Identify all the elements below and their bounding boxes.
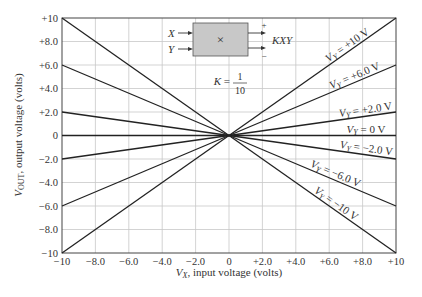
input-y-label: Y — [168, 43, 176, 55]
gain-denominator: 10 — [235, 85, 245, 96]
series-label: VY = +2.0 V — [338, 100, 393, 121]
y-tick-label: +6.0 — [39, 60, 58, 71]
arrowhead-icon — [261, 31, 266, 35]
series-label: VY = −10 V — [311, 184, 360, 225]
y-tick-label: −2.0 — [39, 154, 58, 165]
multiplier-transfer-chart: +10+8.0+6.0+4.0+2.00−2.0−4.0−6.0−8.0−10 … — [0, 0, 422, 297]
gain-label: K = — [213, 75, 230, 87]
x-tick-label: +8.0 — [353, 256, 372, 267]
y-tick-label: +10 — [42, 13, 58, 24]
x-tick-label: −6.0 — [119, 256, 138, 267]
y-tick-labels: +10+8.0+6.0+4.0+2.00−2.0−4.0−6.0−8.0−10 — [39, 13, 58, 259]
y-tick-label: −8.0 — [39, 224, 58, 235]
x-tick-label: −4.0 — [153, 256, 172, 267]
x-tick-label: +10 — [388, 256, 404, 267]
y-axis-title: VOUT, output voltage (volts) — [12, 73, 26, 197]
multiplier-diagram: × X Y + − KXY K = 1 10 — [167, 20, 294, 96]
arrowhead-icon — [188, 31, 193, 35]
series-label: VY = 0 V — [346, 123, 385, 137]
arrowhead-icon — [188, 47, 193, 51]
y-tick-label: +2.0 — [39, 107, 58, 118]
y-tick-label: 0 — [53, 130, 58, 141]
y-tick-label: +4.0 — [39, 83, 58, 94]
x-tick-label: −10 — [54, 256, 70, 267]
output-kxy-label: KXY — [271, 34, 294, 46]
series-labels: VY = +10 VVY = +6.0 VVY = +2.0 VVY = 0 V… — [308, 25, 394, 224]
series-label: VY = −2.0 V — [339, 138, 394, 159]
output-minus-sign: − — [261, 51, 266, 61]
series-label: VY = +6.0 V — [327, 59, 382, 93]
x-tick-label: −8.0 — [86, 256, 105, 267]
y-tick-label: −6.0 — [39, 201, 58, 212]
x-tick-label: +6.0 — [320, 256, 339, 267]
y-tick-label: +8.0 — [39, 36, 58, 47]
input-x-label: X — [167, 27, 176, 39]
series-label: VY = −6.0 V — [308, 157, 363, 191]
series-label: VY = +10 V — [323, 25, 372, 66]
x-axis-title: VX, input voltage (volts) — [176, 266, 283, 280]
multiply-symbol: × — [217, 32, 224, 47]
arrowhead-icon — [261, 46, 266, 50]
x-tick-label: +4.0 — [286, 256, 305, 267]
gain-numerator: 1 — [238, 71, 243, 82]
y-tick-label: −4.0 — [39, 177, 58, 188]
output-plus-sign: + — [261, 20, 266, 30]
